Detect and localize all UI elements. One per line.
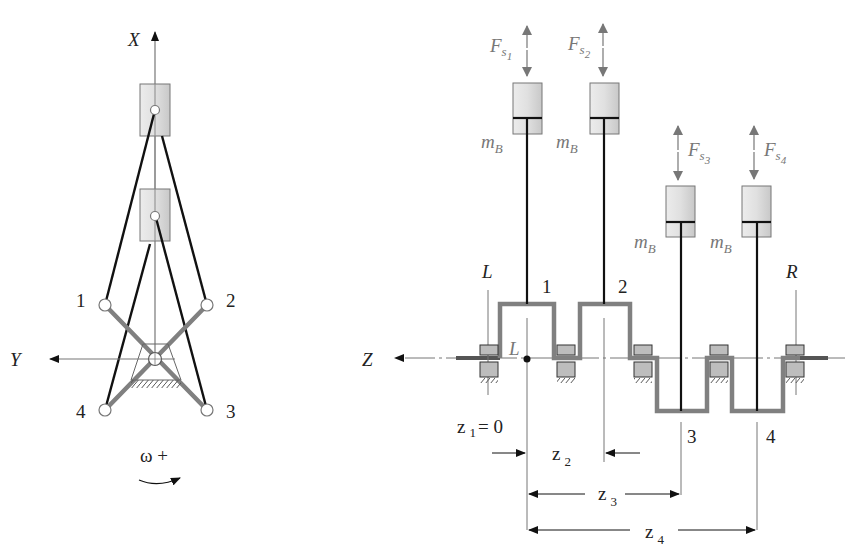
piston-4 bbox=[742, 186, 771, 411]
dimension-z3: z3 bbox=[598, 483, 617, 509]
crank-label-4: 4 bbox=[766, 426, 776, 447]
origin-label: L bbox=[508, 338, 520, 359]
dimension-z1: z1= 0 bbox=[457, 416, 503, 440]
crank-label-2: 2 bbox=[618, 276, 628, 297]
rotation-label: ω + bbox=[140, 445, 168, 466]
force-arrows bbox=[527, 24, 754, 180]
mass-label-3: mB bbox=[634, 231, 656, 256]
dimension-lines bbox=[492, 453, 755, 530]
rotation-arrow-icon bbox=[139, 478, 180, 484]
main-bearings bbox=[480, 345, 804, 383]
bearing-right-label: R bbox=[785, 261, 798, 282]
crank-label-4: 4 bbox=[76, 401, 86, 422]
piston-1 bbox=[513, 83, 542, 304]
piston-2 bbox=[590, 83, 619, 304]
force-label-3: Fs3 bbox=[687, 139, 711, 166]
crank-label-1: 1 bbox=[542, 276, 552, 297]
force-label-2: Fs2 bbox=[567, 33, 591, 60]
crank-label-3: 3 bbox=[687, 426, 697, 447]
x-axis-label: X bbox=[127, 29, 141, 50]
mass-label-4: mB bbox=[710, 231, 732, 256]
crank-label-2: 2 bbox=[226, 290, 236, 311]
dimension-z2: z2 bbox=[552, 443, 571, 469]
crank-label-1: 1 bbox=[76, 290, 86, 311]
z-axis-label: Z bbox=[362, 349, 373, 370]
force-label-1: Fs1 bbox=[489, 35, 512, 62]
bearing-left-label: L bbox=[481, 261, 493, 282]
left-view: X Y bbox=[10, 29, 236, 484]
piston-3 bbox=[666, 186, 695, 411]
dimension-z4: z4 bbox=[645, 521, 664, 547]
right-view: Z L R L bbox=[362, 24, 845, 547]
crankshaft-diagram: X Y bbox=[0, 0, 848, 555]
force-label-4: Fs4 bbox=[763, 139, 787, 166]
y-axis-label: Y bbox=[10, 349, 23, 370]
mass-label-2: mB bbox=[556, 131, 578, 156]
origin-point bbox=[524, 356, 531, 363]
crank-label-3: 3 bbox=[226, 401, 236, 422]
mass-label-1: mB bbox=[481, 131, 503, 156]
